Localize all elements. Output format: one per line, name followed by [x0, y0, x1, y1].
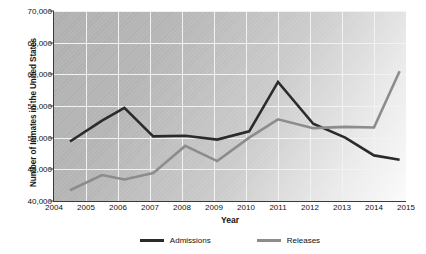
x-axis-tick-label: 2006	[109, 203, 127, 212]
x-axis-tick-label: 2014	[365, 203, 383, 212]
x-axis-tick-label: 2013	[333, 203, 351, 212]
series-line-releases	[70, 71, 400, 190]
x-axis-tick-label: 2004	[45, 203, 63, 212]
x-axis-tick-label: 2010	[237, 203, 255, 212]
legend-item-admissions[interactable]: Admissions	[140, 236, 211, 245]
y-axis-tick-mark	[49, 42, 54, 43]
y-axis-tick-mark	[49, 11, 54, 12]
legend-item-releases[interactable]: Releases	[257, 236, 320, 245]
y-axis-tick-mark	[49, 106, 54, 107]
y-axis-tick-mark	[49, 201, 54, 202]
y-axis-line	[53, 11, 54, 202]
legend-swatch-icon	[257, 239, 281, 242]
legend-label: Releases	[287, 236, 320, 245]
x-axis-tick-label: 2015	[397, 203, 415, 212]
x-axis-tick-label: 2005	[77, 203, 95, 212]
x-axis-line	[54, 201, 406, 202]
x-axis-tick-label: 2007	[141, 203, 159, 212]
series-lines	[54, 11, 406, 201]
x-axis-tick-label: 2009	[205, 203, 223, 212]
legend-swatch-icon	[140, 239, 164, 242]
y-axis-tick-mark	[49, 169, 54, 170]
line-chart: Number of Inmates in the United States 4…	[0, 0, 426, 254]
y-axis-tick-labels: 40,00045,00050,00055,00060,00065,00070,0…	[14, 0, 52, 205]
x-axis-tick-label: 2008	[173, 203, 191, 212]
plot-area	[54, 11, 406, 201]
chart-legend: AdmissionsReleases	[54, 232, 406, 248]
x-axis-title: Year	[54, 215, 406, 225]
x-axis-tick-label: 2012	[301, 203, 319, 212]
legend-label: Admissions	[170, 236, 211, 245]
y-axis-tick-mark	[49, 74, 54, 75]
y-axis-tick-mark	[49, 137, 54, 138]
x-axis-tick-label: 2011	[269, 203, 286, 212]
